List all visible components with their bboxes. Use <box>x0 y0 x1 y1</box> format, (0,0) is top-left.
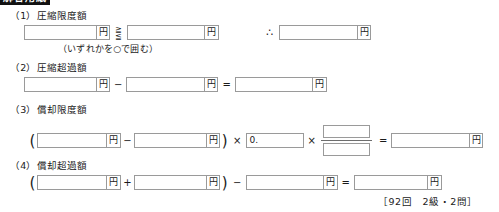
answer-box-2-3-input[interactable] <box>236 78 313 91</box>
section-2-title: 圧縮超過額 <box>37 62 88 73</box>
section-1-conclusion: ∴ 円 <box>266 25 371 40</box>
currency-unit: 円 <box>357 26 371 39</box>
answer-box-3-result[interactable]: 円 <box>391 133 483 148</box>
times-operator: × <box>229 135 245 147</box>
equals-operator: = <box>218 79 234 91</box>
currency-unit: 円 <box>106 134 120 147</box>
answer-box-2-1-input[interactable] <box>25 78 96 91</box>
exam-reference: ［92回 2級・2問］ <box>378 196 478 208</box>
section-1-title: 圧縮限度額 <box>37 10 88 21</box>
less-equal-icon[interactable]: ≦ <box>115 33 122 40</box>
paren-close: ) <box>220 177 229 189</box>
fraction-numerator-box[interactable] <box>323 125 370 138</box>
section-4-label: （4）償却超過額 <box>10 160 88 171</box>
section-4-expression: ( 円 + 円 ) − 円 = 円 <box>28 175 442 190</box>
currency-unit: 円 <box>106 176 120 189</box>
currency-unit: 円 <box>427 176 441 189</box>
header-band: 解答用紙 <box>0 0 50 5</box>
answer-box-1-3[interactable]: 円 <box>279 25 371 40</box>
section-1-expression: 円 ≧ ≦ 円 <box>24 25 219 40</box>
answer-box-4-1[interactable]: 円 <box>37 175 121 190</box>
answer-box-2-1[interactable]: 円 <box>24 77 110 92</box>
answer-box-4-2-input[interactable] <box>135 176 206 189</box>
minus-operator: − <box>121 135 134 147</box>
times-operator: × <box>304 135 320 147</box>
fraction-group <box>320 125 375 156</box>
section-4-number: （4） <box>10 160 37 171</box>
paren-open: ( <box>28 135 37 147</box>
answer-box-4-1-input[interactable] <box>38 176 107 189</box>
section-3-number: （3） <box>10 104 37 115</box>
section-1-number: （1） <box>10 10 37 21</box>
answer-box-2-2-input[interactable] <box>127 78 204 91</box>
section-1-label: （1）圧縮限度額 <box>10 10 88 21</box>
section-2-expression: 円 − 円 = 円 <box>24 77 327 92</box>
fraction-denominator-box[interactable] <box>323 143 370 156</box>
answer-box-1-2-input[interactable] <box>128 26 205 39</box>
answer-box-3-1[interactable]: 円 <box>37 133 121 148</box>
answer-box-1-3-input[interactable] <box>280 26 357 39</box>
section-3-expression: ( 円 − 円 ) × 0. × = 円 <box>28 125 483 156</box>
paren-close: ) <box>220 135 229 147</box>
currency-unit: 円 <box>206 134 220 147</box>
section-3-label: （3）償却限度額 <box>10 104 88 115</box>
answer-box-3-result-input[interactable] <box>392 134 469 147</box>
answer-box-1-1-input[interactable] <box>25 26 96 39</box>
section-2-number: （2） <box>10 62 37 73</box>
equals-operator: = <box>375 135 391 147</box>
currency-unit: 円 <box>323 176 337 189</box>
answer-box-3-2-input[interactable] <box>135 134 206 147</box>
answer-box-3-rate[interactable]: 0. <box>246 133 304 148</box>
minus-operator: − <box>229 177 245 189</box>
answer-box-1-1[interactable]: 円 <box>24 25 110 40</box>
answer-box-4-result-input[interactable] <box>355 176 428 189</box>
fraction-bar <box>321 140 372 141</box>
plus-operator: + <box>121 177 134 189</box>
answer-box-1-2[interactable]: 円 <box>127 25 219 40</box>
currency-unit: 円 <box>96 78 110 91</box>
minus-operator: − <box>110 79 126 91</box>
worksheet-sheet: 解答用紙 （1）圧縮限度額 円 ≧ ≦ 円 ∴ 円 （いずれかを○で囲む） （2… <box>0 0 499 212</box>
therefore-icon: ∴ <box>266 26 279 39</box>
section-2-label: （2）圧縮超過額 <box>10 62 88 73</box>
answer-box-4-3-input[interactable] <box>247 176 324 189</box>
paren-open: ( <box>28 177 37 189</box>
currency-unit: 円 <box>206 176 220 189</box>
answer-box-4-result[interactable]: 円 <box>354 175 442 190</box>
currency-unit: 円 <box>312 78 326 91</box>
decimal-prefix: 0. <box>247 134 259 147</box>
section-1-note: （いずれかを○で囲む） <box>58 44 158 55</box>
currency-unit: 円 <box>204 78 218 91</box>
section-3-title: 償却限度額 <box>37 104 88 115</box>
equals-operator: = <box>338 177 354 189</box>
section-4-title: 償却超過額 <box>37 160 88 171</box>
answer-box-2-2[interactable]: 円 <box>126 77 218 92</box>
answer-box-3-rate-input[interactable] <box>258 134 302 147</box>
inequality-choice-glyph[interactable]: ≧ ≦ <box>110 26 127 40</box>
currency-unit: 円 <box>204 26 218 39</box>
answer-box-4-2[interactable]: 円 <box>134 175 220 190</box>
currency-unit: 円 <box>96 26 110 39</box>
answer-box-3-1-input[interactable] <box>38 134 107 147</box>
currency-unit: 円 <box>469 134 483 147</box>
answer-box-4-3[interactable]: 円 <box>246 175 338 190</box>
answer-box-3-2[interactable]: 円 <box>134 133 220 148</box>
answer-box-2-3[interactable]: 円 <box>235 77 327 92</box>
